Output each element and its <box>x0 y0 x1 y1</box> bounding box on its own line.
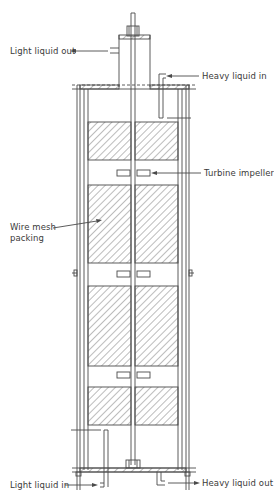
arrow-heavy-liquid-in <box>166 74 199 78</box>
packing-section-2 <box>88 185 178 263</box>
top-settling-chamber <box>110 26 150 87</box>
central-shaft <box>131 13 135 465</box>
packing-section-1 <box>88 122 178 160</box>
arrow-turbine-impeller <box>151 171 201 175</box>
turbine-impeller-2 <box>117 271 150 277</box>
arrow-heavy-liquid-out <box>168 481 200 485</box>
top-flange <box>72 85 196 89</box>
label-wire-mesh-line2: packing <box>10 233 44 243</box>
label-heavy-liquid-in: Heavy liquid in <box>202 71 267 81</box>
bottom-flange <box>72 468 196 476</box>
mid-side-flanges <box>72 270 194 276</box>
turbine-impeller-3 <box>117 372 150 378</box>
label-light-liquid-out: Light liquid out <box>10 46 75 56</box>
arrow-light-liquid-in <box>65 483 98 487</box>
arrow-light-liquid-out <box>70 49 108 53</box>
packing-section-4 <box>88 387 178 425</box>
heavy-liquid-outlet-pipe <box>157 472 165 485</box>
label-light-liquid-in: Light liquid in <box>10 480 69 490</box>
turbine-impeller-1 <box>117 170 150 176</box>
bottom-bearing <box>126 460 140 468</box>
label-heavy-liquid-out: Heavy liquid out <box>202 478 273 488</box>
label-wire-mesh-line1: Wire mesh <box>10 222 56 232</box>
packing-section-3 <box>88 286 178 366</box>
label-turbine-impeller: Turbine impeller <box>204 168 274 178</box>
